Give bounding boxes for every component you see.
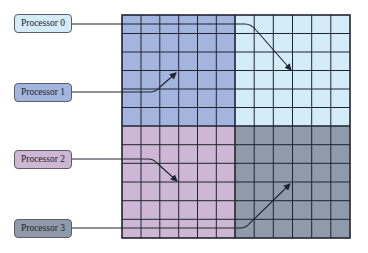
processor-0-label: Processor 0 <box>14 14 72 33</box>
processor-1-label: Processor 1 <box>14 83 72 102</box>
processor-3-label: Processor 3 <box>14 219 72 238</box>
decomposition-grid <box>0 0 368 253</box>
processor-2-label: Processor 2 <box>14 150 72 169</box>
